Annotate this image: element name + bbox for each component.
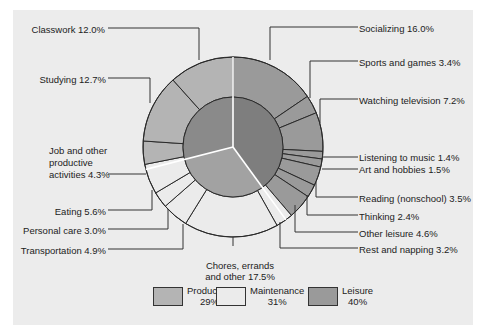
label-sports: Sports and games 3.4% [359, 57, 460, 68]
legend-leisure-pct: 40% [342, 296, 373, 307]
legend-maintenance: Maintenance 31% [216, 285, 304, 307]
label-chores-line1: Chores, errands [190, 260, 290, 271]
label-thinking: Thinking 2.4% [359, 211, 419, 222]
label-eating: Eating 5.6% [20, 206, 106, 217]
label-reading: Reading (nonschool) 3.5% [359, 193, 471, 204]
label-classwork: Classwork 12.0% [20, 24, 105, 35]
legend-swatch-productive [153, 287, 183, 306]
legend-maintenance-name: Maintenance [250, 285, 304, 296]
legend-swatch-maintenance [216, 287, 246, 306]
label-rest: Rest and napping 3.2% [359, 244, 458, 255]
legend-swatch-leisure [308, 287, 338, 306]
label-job-line3: activities 4.3% [49, 169, 110, 180]
label-art: Art and hobbies 1.5% [359, 164, 450, 175]
label-studying: Studying 12.7% [20, 74, 106, 85]
label-tv: Watching television 7.2% [359, 95, 465, 106]
label-socializing: Socializing 16.0% [359, 23, 434, 34]
legend-leisure-name: Leisure [342, 285, 373, 296]
label-job-line1: Job and other [49, 145, 107, 156]
legend-leisure: Leisure 40% [308, 285, 373, 307]
label-job-line2: productive [49, 157, 93, 168]
legend-maintenance-pct: 31% [250, 296, 304, 307]
label-music: Listening to music 1.4% [359, 152, 459, 163]
label-transportation: Transportation 4.9% [20, 245, 106, 256]
label-personal-care: Personal care 3.0% [20, 225, 106, 236]
label-other-leisure: Other leisure 4.6% [359, 228, 438, 239]
label-chores-line2: and other 17.5% [190, 271, 290, 282]
